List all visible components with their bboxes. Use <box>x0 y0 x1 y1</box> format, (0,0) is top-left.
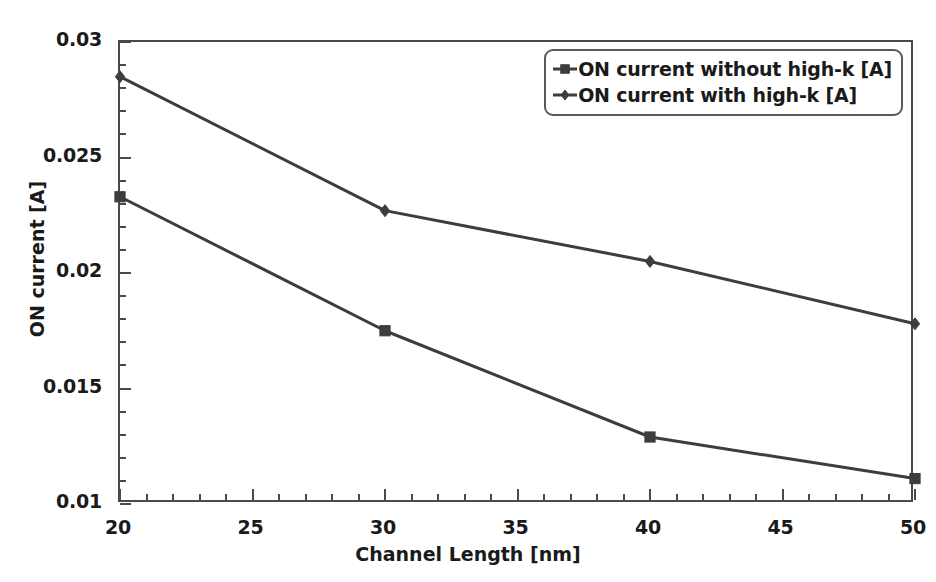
data-point <box>645 432 655 442</box>
legend: ON current without high-k [A]ON current … <box>544 49 903 116</box>
x-axis-tick-label: 30 <box>343 516 423 538</box>
x-axis-tick-label: 25 <box>211 516 291 538</box>
y-axis-tick-label: 0.015 <box>0 375 102 397</box>
y-axis-tick-label: 0.02 <box>0 259 102 281</box>
legend-item[interactable]: ON current with high-k [A] <box>552 82 892 108</box>
series-line <box>120 197 915 479</box>
data-point <box>910 318 919 330</box>
chart-figure: ON current [A] Channel Length [nm] 0.010… <box>0 0 936 582</box>
legend-item[interactable]: ON current without high-k [A] <box>552 56 892 82</box>
data-point <box>645 255 654 267</box>
x-axis-title: Channel Length [nm] <box>0 543 936 565</box>
data-point <box>910 473 920 483</box>
plot-area: ON current without high-k [A]ON current … <box>118 40 913 502</box>
legend-label: ON current without high-k [A] <box>578 58 892 80</box>
legend-diamond-marker-icon <box>552 85 578 105</box>
data-point <box>115 71 124 83</box>
y-axis-tick-label: 0.025 <box>0 144 102 166</box>
x-axis-tick-label: 50 <box>873 516 936 538</box>
x-axis-tick-label: 45 <box>741 516 821 538</box>
x-axis-tick-label: 40 <box>608 516 688 538</box>
y-axis-tick-label: 0.03 <box>0 28 102 50</box>
y-axis-tick-label: 0.01 <box>0 490 102 512</box>
x-axis-tick-label: 20 <box>78 516 158 538</box>
legend-label: ON current with high-k [A] <box>578 84 857 106</box>
x-axis-tick-label: 35 <box>476 516 556 538</box>
data-point <box>380 205 389 217</box>
data-point <box>380 326 390 336</box>
data-point <box>115 192 125 202</box>
legend-square-marker-icon <box>552 59 578 79</box>
